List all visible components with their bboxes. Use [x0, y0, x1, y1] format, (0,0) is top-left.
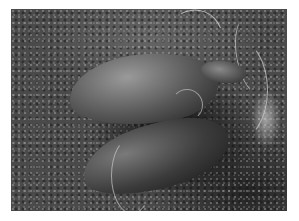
flagellum — [171, 89, 203, 121]
fibrous-debris — [251, 89, 281, 149]
micrograph-image — [11, 9, 287, 211]
flagellum — [111, 137, 153, 211]
